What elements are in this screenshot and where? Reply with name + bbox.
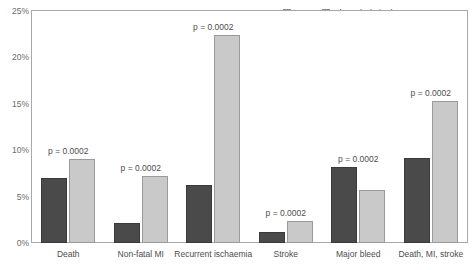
bar-pci — [404, 158, 430, 243]
x-axis-category-label: Death — [57, 250, 80, 259]
p-value-annotation: p = 0.0002 — [48, 147, 88, 156]
p-value-annotation: p = 0.0002 — [338, 155, 378, 164]
bar-pci — [331, 167, 357, 243]
p-value-annotation: p = 0.0002 — [266, 209, 306, 218]
y-axis-tick-label: 25% — [3, 7, 29, 16]
y-axis: 0%5%10%15%20%25% — [0, 0, 29, 270]
x-axis-category-label: Stroke — [273, 250, 298, 259]
bar-pci — [41, 178, 67, 243]
y-axis-tick-label: 5% — [3, 192, 29, 201]
plot-area — [32, 11, 467, 243]
p-value-annotation: p = 0.0002 — [121, 164, 161, 173]
bar-thrombolytic-therapy — [287, 221, 313, 243]
bar-pci — [114, 223, 140, 243]
x-axis-category-label: Non-fatal MI — [118, 250, 164, 259]
p-value-annotation: p = 0.0002 — [411, 89, 451, 98]
bar-pci — [186, 185, 212, 243]
bar-chart: PCI Thrombolytic therapy 0%5%10%15%20%25… — [0, 0, 472, 270]
x-axis-category-label: Recurrent ischaemia — [174, 250, 252, 259]
bar-thrombolytic-therapy — [214, 35, 240, 243]
bar-thrombolytic-therapy — [142, 176, 168, 243]
y-axis-tick-label: 20% — [3, 53, 29, 62]
x-axis-category-label: Death, MI, stroke — [398, 250, 463, 259]
x-axis-category-label: Major bleed — [336, 250, 380, 259]
p-value-annotation: p = 0.0002 — [193, 23, 233, 32]
bar-thrombolytic-therapy — [359, 190, 385, 243]
y-axis-tick-label: 0% — [3, 239, 29, 248]
bar-thrombolytic-therapy — [69, 159, 95, 243]
bar-pci — [259, 232, 285, 243]
y-axis-tick-label: 10% — [3, 146, 29, 155]
bar-thrombolytic-therapy — [432, 101, 458, 243]
y-axis-tick-label: 15% — [3, 100, 29, 109]
